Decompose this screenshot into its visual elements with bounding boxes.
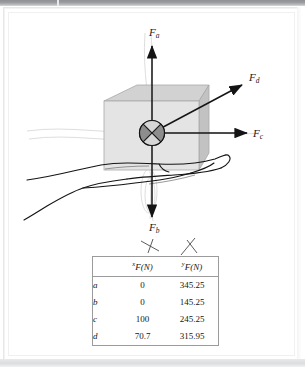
cell-y-force: 245.25 [166, 311, 219, 328]
force-diagram: Fa Fb Fc Fd xF(N) [9, 13, 304, 365]
cell-x-force: 70.7 [119, 328, 166, 346]
table-row: b 0 145.25 [93, 294, 219, 311]
force-table-head: xF(N) yF(N) [93, 257, 219, 277]
label-force-d: Fd [249, 72, 259, 85]
cell-y-force: 345.25 [166, 277, 219, 295]
axis-tick-scribbles [141, 238, 197, 255]
top-scan-band [0, 0, 305, 6]
row-label: c [93, 311, 120, 328]
label-force-a: Fa [149, 27, 159, 40]
figure-page: Fa Fb Fc Fd xF(N) [0, 0, 305, 374]
header-row-label [93, 257, 120, 277]
force-table-body: a 0 345.25 b 0 145.25 c 100 [93, 277, 219, 346]
table-row: a 0 345.25 [93, 277, 219, 295]
force-table: xF(N) yF(N) a 0 345.25 b [92, 256, 219, 346]
cell-x-force: 0 [119, 294, 166, 311]
bottom-scan-band [0, 359, 305, 367]
force-table-container: xF(N) yF(N) a 0 345.25 b [92, 256, 219, 346]
cell-y-force: 145.25 [166, 294, 219, 311]
cell-x-force: 0 [119, 277, 166, 295]
page-right-edge [297, 7, 305, 359]
header-y-force: yF(N) [166, 257, 219, 277]
bottom-white-margin [0, 367, 305, 374]
cube-top-face [104, 85, 209, 101]
label-force-c: Fc [253, 128, 263, 141]
cell-y-force: 315.95 [166, 328, 219, 346]
page-frame-inner: Fa Fb Fc Fd xF(N) [8, 12, 295, 356]
row-label: b [93, 294, 120, 311]
table-row: c 100 245.25 [93, 311, 219, 328]
page-frame: Fa Fb Fc Fd xF(N) [3, 7, 300, 361]
top-band-notch [57, 0, 59, 6]
row-label: d [93, 328, 120, 346]
table-header-row: xF(N) yF(N) [93, 257, 219, 277]
table-row: d 70.7 315.95 [93, 328, 219, 346]
header-x-force: xF(N) [119, 257, 166, 277]
cell-x-force: 100 [119, 311, 166, 328]
force-application-marker [140, 121, 165, 146]
row-label: a [93, 277, 120, 295]
label-force-b: Fb [149, 222, 159, 235]
